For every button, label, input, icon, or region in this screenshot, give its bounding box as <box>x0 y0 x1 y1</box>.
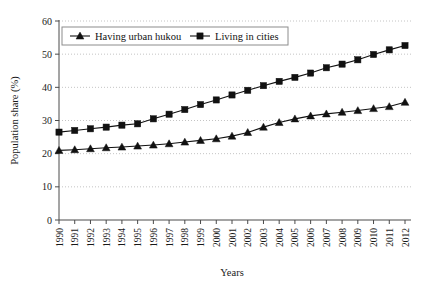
x-tick-label-1990: 1990 <box>55 228 65 247</box>
y-tick-label-30: 30 <box>42 115 52 126</box>
y-axis-title: Population share (%) <box>9 76 21 165</box>
marker-living-in-cities-13 <box>260 83 266 89</box>
marker-living-in-cities-18 <box>339 61 345 67</box>
x-tick-label-2004: 2004 <box>275 228 285 247</box>
marker-living-in-cities-legend <box>197 33 203 39</box>
x-tick-label-2007: 2007 <box>322 228 332 247</box>
marker-living-in-cities-5 <box>135 121 141 127</box>
x-tick-label-2009: 2009 <box>353 228 363 247</box>
x-tick-label-2005: 2005 <box>290 228 300 247</box>
chart-container: 0102030405060199019911992199319941995199… <box>0 0 428 285</box>
x-tick-label-1991: 1991 <box>70 228 80 247</box>
x-tick-label-1992: 1992 <box>86 228 96 247</box>
x-tick-label-2003: 2003 <box>259 228 269 247</box>
population-share-line-chart: 0102030405060199019911992199319941995199… <box>0 0 428 285</box>
y-tick-label-40: 40 <box>42 82 52 93</box>
x-tick-label-1997: 1997 <box>165 228 175 247</box>
marker-living-in-cities-14 <box>276 78 282 84</box>
marker-living-in-cities-8 <box>182 106 188 112</box>
marker-having-urban-hukou-22 <box>401 98 409 105</box>
marker-living-in-cities-21 <box>386 47 392 53</box>
x-tick-label-2000: 2000 <box>212 228 222 247</box>
marker-living-in-cities-9 <box>197 101 203 107</box>
marker-living-in-cities-15 <box>292 74 298 80</box>
marker-living-in-cities-7 <box>166 111 172 117</box>
marker-living-in-cities-19 <box>355 57 361 63</box>
marker-living-in-cities-17 <box>323 65 329 71</box>
legend-label-living-in-cities: Living in cities <box>215 31 279 42</box>
y-tick-label-0: 0 <box>47 215 52 226</box>
series-line-living-in-cities <box>59 46 405 133</box>
marker-living-in-cities-0 <box>56 129 62 135</box>
x-tick-label-2008: 2008 <box>338 228 348 247</box>
x-tick-label-2011: 2011 <box>385 228 395 247</box>
marker-living-in-cities-2 <box>87 126 93 132</box>
x-tick-label-2001: 2001 <box>228 228 238 247</box>
x-tick-label-1998: 1998 <box>180 228 190 247</box>
marker-living-in-cities-4 <box>119 122 125 128</box>
y-tick-label-20: 20 <box>42 148 52 159</box>
x-tick-label-2012: 2012 <box>401 228 411 247</box>
y-tick-label-50: 50 <box>42 49 52 60</box>
x-tick-label-2002: 2002 <box>243 228 253 247</box>
x-tick-label-2010: 2010 <box>369 228 379 247</box>
marker-living-in-cities-22 <box>402 42 408 48</box>
marker-living-in-cities-10 <box>213 97 219 103</box>
x-tick-label-2006: 2006 <box>306 228 316 247</box>
marker-living-in-cities-12 <box>245 87 251 93</box>
y-tick-label-60: 60 <box>42 16 52 27</box>
marker-living-in-cities-20 <box>370 51 376 57</box>
x-tick-label-1995: 1995 <box>133 228 143 247</box>
marker-living-in-cities-16 <box>308 70 314 76</box>
marker-living-in-cities-6 <box>150 116 156 122</box>
x-tick-label-1999: 1999 <box>196 228 206 247</box>
y-tick-label-10: 10 <box>42 181 52 192</box>
x-tick-label-1993: 1993 <box>102 228 112 247</box>
legend-label-having-urban-hukou: Having urban hukou <box>95 31 182 42</box>
marker-living-in-cities-3 <box>103 124 109 130</box>
x-tick-label-1996: 1996 <box>149 228 159 247</box>
marker-living-in-cities-11 <box>229 92 235 98</box>
marker-living-in-cities-1 <box>72 127 78 133</box>
x-tick-label-1994: 1994 <box>117 228 127 247</box>
x-axis-title: Years <box>220 267 243 278</box>
